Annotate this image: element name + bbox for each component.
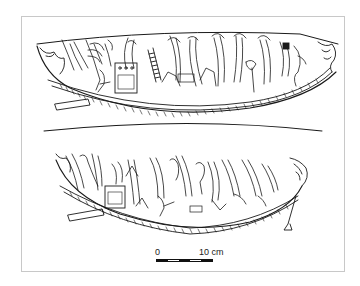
scale-segment bbox=[190, 260, 201, 261]
scale-end-label: 10 cm bbox=[199, 248, 224, 257]
scale-start-label: 0 bbox=[155, 248, 160, 257]
separator-line bbox=[44, 124, 322, 132]
scale-segment bbox=[157, 260, 168, 261]
scale-segment bbox=[201, 260, 212, 261]
scale-segment bbox=[179, 260, 190, 261]
upper-boat bbox=[37, 32, 338, 117]
scale-segment bbox=[168, 260, 179, 261]
scale-bar bbox=[156, 259, 213, 262]
boat-illustration bbox=[0, 0, 360, 286]
lower-boat bbox=[56, 154, 307, 234]
